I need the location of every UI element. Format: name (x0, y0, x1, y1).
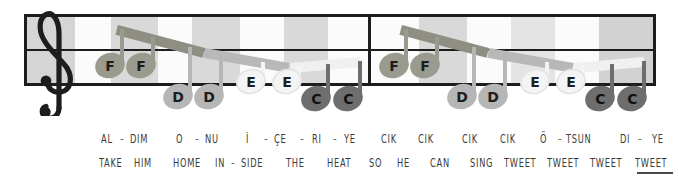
english-syllable: THE (286, 156, 305, 170)
turkish-hyphen: - (638, 132, 642, 146)
english-syllable: TWEET (590, 156, 622, 170)
turkish-hyphen: - (120, 132, 124, 146)
turkish-hyphen: - (195, 132, 199, 146)
english-syllable: IN (215, 156, 225, 170)
notehead-label: E (246, 75, 256, 89)
english-syllable: SING (470, 156, 493, 170)
english-lyrics-row: TAKEHIMHOMEINSIDETHEHEATSOHECANSINGTWEET… (0, 156, 678, 176)
treble-clef-icon (26, 4, 92, 116)
notehead-label: D (456, 90, 468, 104)
notehead-label: F (105, 59, 115, 73)
turkish-syllable: RI (312, 132, 322, 146)
notehead-label: C (343, 92, 353, 106)
turkish-syllable: DIM (130, 132, 148, 146)
english-hyphen: - (231, 156, 235, 170)
notehead-label: E (530, 75, 540, 89)
notehead-label: C (311, 92, 321, 106)
english-syllable: TWEET (547, 156, 579, 170)
english-syllable: SIDE (241, 156, 263, 170)
notehead-label: F (389, 59, 399, 73)
english-syllable: HIM (134, 156, 152, 170)
notehead-label: D (487, 90, 499, 104)
turkish-syllable: YE (344, 132, 356, 146)
music-score: FFDDEECCFFDDEECC (0, 0, 678, 130)
notehead-label: C (595, 92, 605, 106)
notehead-label: D (172, 90, 184, 104)
notehead-label: E (282, 75, 292, 89)
english-syllable: SO (369, 156, 382, 170)
turkish-syllable: AL (101, 132, 113, 146)
turkish-hyphen: - (300, 132, 304, 146)
turkish-syllable: İ (246, 132, 249, 146)
english-syllable: HE (397, 156, 410, 170)
turkish-syllable: DI (620, 132, 630, 146)
turkish-syllable: CIK (500, 132, 516, 146)
turkish-syllable: CIK (462, 132, 478, 146)
barline (368, 14, 371, 86)
english-syllable: TWEET (635, 156, 667, 170)
lyrics-block: ALDIMONUİÇERIYECIKCIKCIKCIKÖTSUNDIYE----… (0, 132, 678, 189)
turkish-syllable: YE (652, 132, 664, 146)
english-syllable: CAN (430, 156, 450, 170)
turkish-hyphen: - (333, 132, 337, 146)
turkish-hyphen: - (264, 132, 268, 146)
turkish-syllable: O (176, 132, 183, 146)
notehead-label: C (627, 92, 637, 106)
english-extender-line (637, 172, 673, 174)
notehead-label: F (136, 59, 146, 73)
turkish-syllable: CIK (418, 132, 434, 146)
turkish-hyphen: - (558, 132, 562, 146)
notehead-label: F (420, 59, 430, 73)
notehead-label: D (203, 90, 215, 104)
turkish-syllable: TSUN (566, 132, 591, 146)
english-syllable: HEAT (327, 156, 351, 170)
notehead-label: E (566, 75, 576, 89)
english-syllable: TWEET (504, 156, 536, 170)
turkish-lyrics-row: ALDIMONUİÇERIYECIKCIKCIKCIKÖTSUNDIYE----… (0, 132, 678, 152)
english-syllable: TAKE (99, 156, 123, 170)
english-syllable: HOME (173, 156, 201, 170)
turkish-syllable: NU (205, 132, 219, 146)
turkish-syllable: ÇE (274, 132, 286, 146)
turkish-syllable: CIK (381, 132, 397, 146)
turkish-syllable: Ö (540, 132, 547, 146)
